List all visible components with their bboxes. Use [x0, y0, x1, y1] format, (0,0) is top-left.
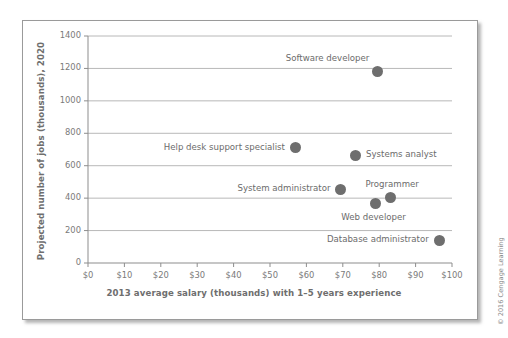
x-tick-label: $10: [104, 270, 144, 280]
y-tick-label: 0: [41, 257, 81, 267]
x-tick-label: $0: [68, 270, 108, 280]
copyright-credit: © 2016 Cengage Learning: [497, 237, 505, 325]
data-point-label: Help desk support specialist: [164, 142, 285, 152]
x-tick-label: $80: [359, 270, 399, 280]
data-point-label: Software developer: [286, 53, 370, 63]
data-point-label: System administrator: [238, 183, 331, 193]
x-tick-label: $50: [250, 270, 290, 280]
x-tick-label: $30: [177, 270, 217, 280]
data-point[interactable]: [385, 192, 396, 203]
y-tick-label: 600: [41, 160, 81, 170]
y-axis-title: Projected number of jobs (thousands), 20…: [36, 31, 46, 271]
figure-container: 0200400600800100012001400$0$10$20$30$40$…: [0, 0, 508, 338]
y-tick-label: 800: [41, 127, 81, 137]
data-point-label: Programmer: [365, 179, 418, 189]
x-tick-label: $40: [214, 270, 254, 280]
x-tick-label: $70: [323, 270, 363, 280]
y-tick-label: 1200: [41, 62, 81, 72]
y-tick-label: 400: [41, 192, 81, 202]
data-point[interactable]: [350, 150, 361, 161]
x-tick-label: $90: [396, 270, 436, 280]
data-point-label: Database administrator: [327, 234, 429, 244]
data-point[interactable]: [434, 235, 445, 246]
x-tick-label: $60: [286, 270, 326, 280]
x-axis-title: 2013 average salary (thousands) with 1–5…: [0, 288, 508, 298]
y-tick-label: 1400: [41, 30, 81, 40]
y-tick-label: 1000: [41, 95, 81, 105]
data-point[interactable]: [372, 66, 383, 77]
data-point-label: Web developer: [341, 212, 406, 222]
data-point[interactable]: [370, 198, 381, 209]
x-tick-label: $20: [141, 270, 181, 280]
data-point-label: Systems analyst: [366, 149, 437, 159]
x-tick-label: $100: [432, 270, 472, 280]
y-tick-label: 200: [41, 225, 81, 235]
